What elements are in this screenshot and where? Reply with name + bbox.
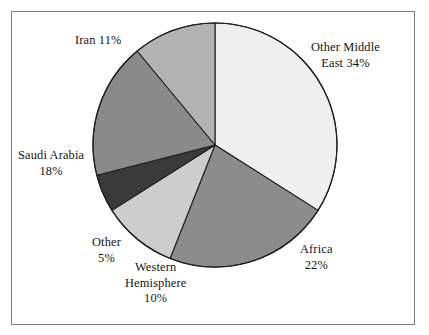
slice-label-line: 5% (92, 251, 121, 267)
slice-label-other: Other 5% (92, 235, 121, 266)
slice-label-line: Iran 11% (75, 33, 122, 49)
slice-label-iran: Iran 11% (75, 33, 122, 49)
slice-label-saudi-arabia: Saudi Arabia 18% (18, 148, 84, 179)
slice-label-line: Saudi Arabia (18, 148, 84, 164)
slice-label-line: 22% (300, 258, 333, 274)
slice-label-other-middle-east: Other Middle East 34% (311, 40, 380, 71)
pie-slices-group (93, 23, 337, 267)
slice-label-line: East 34% (311, 56, 380, 72)
slice-label-line: Western (125, 260, 186, 276)
slice-label-line: Africa (300, 242, 333, 258)
slice-label-line: Other Middle (311, 40, 380, 56)
slice-label-line: Hemisphere (125, 276, 186, 292)
slice-label-line: 10% (125, 291, 186, 307)
slice-label-western-hemisphere: Western Hemisphere 10% (125, 260, 186, 307)
slice-label-line: Other (92, 235, 121, 251)
slice-label-africa: Africa 22% (300, 242, 333, 273)
pie-chart-figure: Other Middle East 34% Africa 22% Western… (0, 0, 429, 335)
slice-label-line: 18% (18, 164, 84, 180)
